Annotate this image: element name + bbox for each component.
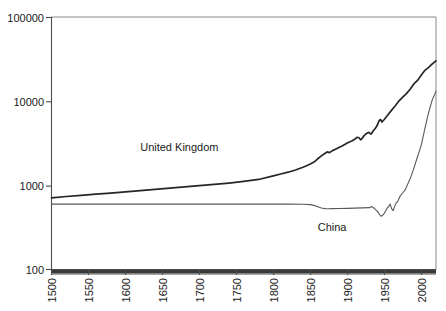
x-tick-label-1850: 1850 [305, 278, 317, 302]
x-tick-label-1750: 1750 [231, 278, 243, 302]
x-tick-label-1650: 1650 [157, 278, 169, 302]
x-tick-label-1500: 1500 [46, 278, 58, 302]
x-tick-label-1950: 1950 [379, 278, 391, 302]
x-tick-label-1700: 1700 [194, 278, 206, 302]
x-tick-label-1800: 1800 [268, 278, 280, 302]
y-tick-label-10000: 10000 [13, 96, 44, 108]
y-tick-label-100: 100 [26, 264, 44, 276]
x-tick-label-1600: 1600 [120, 278, 132, 302]
y-tick-marks [46, 18, 51, 270]
x-axis-band [51, 270, 436, 273]
x-tick-labels: 1500 1550 1600 1650 1700 1750 1800 1850 … [46, 278, 428, 302]
y-tick-label-100000: 100000 [7, 12, 44, 24]
series-annotation-china: China [318, 221, 348, 233]
chart-container: 100000 10000 1000 100 1500 1550 1600 165… [0, 0, 446, 311]
line-chart: 100000 10000 1000 100 1500 1550 1600 165… [0, 0, 446, 311]
x-tick-label-2000: 2000 [416, 278, 428, 302]
y-tick-labels: 100000 10000 1000 100 [7, 12, 44, 276]
x-axis-band-shadow [51, 273, 436, 274]
x-tick-label-1900: 1900 [342, 278, 354, 302]
plot-background [51, 17, 436, 270]
y-tick-label-1000: 1000 [20, 180, 44, 192]
x-tick-label-1550: 1550 [83, 278, 95, 302]
series-annotation-united-kingdom: United Kingdom [140, 141, 218, 153]
